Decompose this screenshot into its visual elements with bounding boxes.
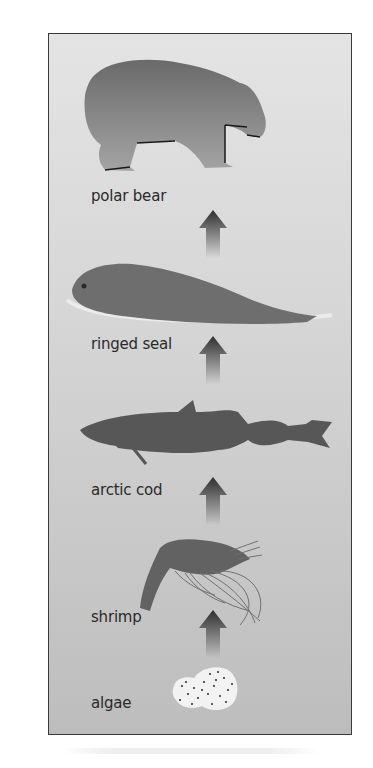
algae-icon: [170, 664, 240, 712]
arctic-cod-icon: [78, 398, 338, 468]
arrow-up-icon: [199, 610, 227, 658]
arrow-up-icon: [199, 210, 227, 258]
arrow-up-icon: [199, 336, 227, 384]
polar-bear-icon: [75, 55, 275, 175]
label-ringed-seal: ringed seal: [91, 335, 172, 353]
label-shrimp: shrimp: [91, 608, 142, 626]
label-algae: algae: [91, 694, 131, 712]
faint-caption: [60, 748, 320, 754]
label-polar-bear: polar bear: [91, 187, 166, 205]
ringed-seal-icon: [62, 260, 342, 335]
label-arctic-cod: arctic cod: [91, 481, 162, 499]
arrow-up-icon: [199, 477, 227, 525]
